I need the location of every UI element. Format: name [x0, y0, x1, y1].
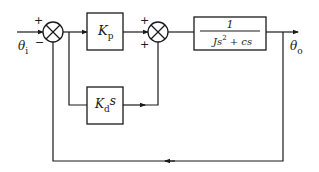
- junction1-plus-sign: +: [34, 14, 43, 27]
- plant-den-js: Js: [211, 36, 222, 47]
- junction1-minus-sign: −: [35, 36, 44, 49]
- kp-subscript: p: [108, 31, 114, 41]
- error-to-kd-line: [69, 32, 87, 105]
- kd-to-junction2-line: [141, 42, 158, 105]
- kd-block: Kds: [87, 87, 123, 124]
- plant-den-rest: + cs: [227, 36, 252, 47]
- output-label: θo: [290, 39, 303, 56]
- junction2-top-sign: +: [140, 14, 149, 27]
- junction2-bottom-sign: +: [140, 38, 149, 51]
- plant-block: 1 Js2 + cs: [194, 17, 266, 50]
- block-diagram: Kp Kds 1 Js2 + cs + − + + θi θo: [0, 0, 319, 172]
- summing-junction-2: [148, 22, 168, 42]
- kp-block: Kp: [87, 13, 123, 50]
- plant-numerator: 1: [227, 18, 234, 31]
- svg-text:Js2 + cs: Js2 + cs: [211, 34, 252, 47]
- input-label: θi: [18, 39, 28, 56]
- kd-s: s: [110, 94, 116, 108]
- summing-junction-1: [43, 22, 63, 42]
